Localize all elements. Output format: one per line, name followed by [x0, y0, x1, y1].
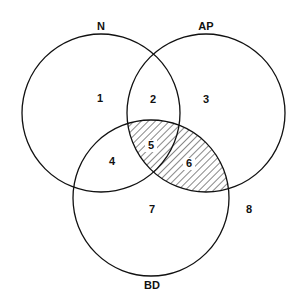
set-label-n: N [97, 20, 105, 32]
set-label-ap: AP [198, 20, 213, 32]
region-3: 3 [203, 93, 209, 105]
region-4: 4 [109, 155, 116, 167]
region-1: 1 [97, 92, 103, 104]
region-6: 6 [186, 157, 192, 169]
region-2: 2 [150, 93, 156, 105]
region-8: 8 [246, 203, 252, 215]
venn-diagram: N AP BD 1 2 3 4 5 6 7 8 [0, 0, 295, 303]
region-5: 5 [148, 139, 154, 151]
set-label-bd: BD [144, 279, 160, 291]
region-7: 7 [149, 203, 155, 215]
